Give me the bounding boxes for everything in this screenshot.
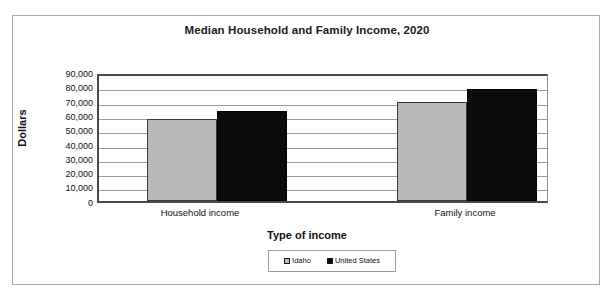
y-tick-label: 60,000: [38, 113, 93, 122]
x-category-label-family: Family income: [375, 207, 555, 218]
y-tick-label: 0: [38, 199, 93, 208]
y-tick-label: 10,000: [38, 184, 93, 193]
y-tick-label: 30,000: [38, 156, 93, 165]
legend-entry-idaho[interactable]: Idaho: [284, 257, 311, 265]
y-tick-label: 50,000: [38, 127, 93, 136]
legend-entry-united-states[interactable]: United States: [327, 257, 380, 265]
y-tick-label: 80,000: [38, 84, 93, 93]
y-tick-label: 40,000: [38, 142, 93, 151]
x-axis-title: Type of income: [0, 229, 614, 241]
y-axis-title: Dollars: [16, 98, 28, 158]
chart-figure: Median Household and Family Income, 2020…: [0, 0, 614, 297]
legend-label: Idaho: [292, 257, 311, 265]
y-axis-tick-labels: 90,000 80,000 70,000 60,000 50,000 40,00…: [38, 74, 93, 203]
bar-family-idaho[interactable]: [397, 102, 467, 201]
y-tick-label: 90,000: [38, 70, 93, 79]
legend-label: United States: [335, 257, 380, 265]
chart-title: Median Household and Family Income, 2020: [0, 24, 614, 36]
y-tick-label: 20,000: [38, 170, 93, 179]
legend-swatch-icon: [284, 258, 290, 264]
legend-swatch-icon: [327, 258, 333, 264]
plot-area: [97, 74, 548, 203]
chart-legend: Idaho United States: [268, 250, 396, 272]
bar-household-idaho[interactable]: [147, 119, 217, 201]
bar-family-united-states[interactable]: [467, 89, 537, 202]
y-tick-label: 70,000: [38, 99, 93, 108]
bar-household-united-states[interactable]: [217, 111, 287, 201]
x-category-label-household: Household income: [110, 207, 290, 218]
